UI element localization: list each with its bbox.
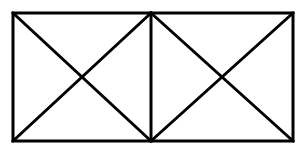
diagram-canvas [0,0,300,151]
